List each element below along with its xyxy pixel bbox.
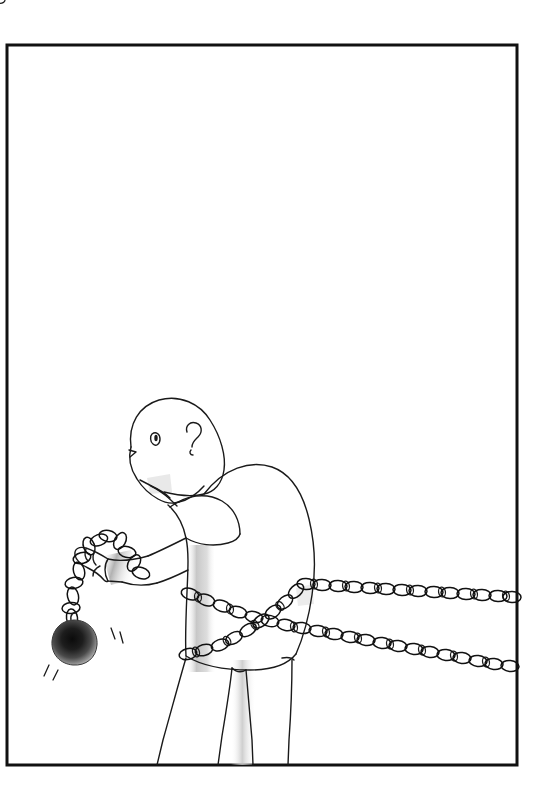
chain-handheld xyxy=(62,532,110,628)
leg-front-inner xyxy=(218,668,232,765)
iron-ball xyxy=(52,613,97,665)
pupil xyxy=(154,435,157,441)
head xyxy=(131,398,225,495)
forearm-bottom xyxy=(122,582,157,585)
ear-lobe xyxy=(190,450,193,455)
ear xyxy=(187,423,202,447)
drawing-canvas xyxy=(0,0,536,789)
line-drawing-artwork xyxy=(0,0,536,789)
knuckle-2 xyxy=(93,553,96,565)
upper-arm-bottom xyxy=(157,570,188,583)
torso-shadow xyxy=(186,545,216,672)
front-torso xyxy=(168,505,188,656)
chain-detail-links xyxy=(0,0,510,668)
leg-back-inner xyxy=(288,660,292,765)
upper-arm-top xyxy=(148,538,186,556)
jaw xyxy=(130,447,179,503)
chain-shoulder-rail xyxy=(297,578,522,603)
leg-front-outer xyxy=(157,658,186,765)
sleeve-hem xyxy=(186,534,240,545)
